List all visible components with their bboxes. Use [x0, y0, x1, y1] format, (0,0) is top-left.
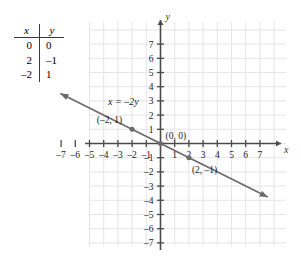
y-axis-tick-label: 2 — [149, 111, 154, 121]
x-axis-tick-label: 7 — [258, 150, 263, 160]
data-point — [186, 155, 191, 160]
x-axis-tick-label: –7 — [55, 150, 66, 160]
y-axis-tick-label: –7 — [143, 238, 154, 248]
data-point-label: (–2, 1) — [97, 115, 122, 126]
data-point — [130, 127, 135, 132]
y-axis-tick-label: –1 — [143, 153, 154, 163]
grid-lines — [90, 22, 287, 246]
equation-label: x = –2y — [107, 96, 139, 107]
figure-container: x y 0 0 2 –1 –2 1 –7–6–5–4–3–2–11234567–… — [0, 0, 301, 256]
data-point-label: (0, 0) — [166, 131, 187, 142]
y-axis-tick-label: 1 — [149, 125, 154, 135]
y-axis-label: y — [165, 11, 171, 22]
x-axis-tick-label: –4 — [98, 150, 109, 160]
x-axis-tick-label: 3 — [201, 150, 206, 160]
plotted-points: (–2, 1)(0, 0)(2, –1) — [97, 115, 217, 175]
annotations: yxx = –2y — [107, 11, 289, 155]
y-axis-tick-label: 3 — [149, 96, 154, 106]
x-axis-tick-label: 6 — [243, 150, 248, 160]
x-axis-tick-label: 5 — [229, 150, 234, 160]
y-axis-arrow-icon — [158, 20, 164, 25]
data-point — [158, 141, 163, 146]
y-axis-tick-label: 6 — [149, 54, 154, 64]
y-axis-tick-label: 4 — [149, 82, 154, 92]
x-axis-tick-label: –2 — [126, 150, 137, 160]
x-axis-tick-label: –3 — [112, 150, 123, 160]
y-axis-tick-label: –5 — [143, 210, 154, 220]
coordinate-plane: –7–6–5–4–3–2–11234567–7–6–5–4–3–2–112345… — [0, 0, 301, 256]
y-axis-tick-label: –6 — [143, 224, 154, 234]
line-arrow-right-icon — [259, 191, 269, 200]
x-axis-tick-label: –5 — [84, 150, 95, 160]
y-axis-tick-label: –4 — [143, 196, 154, 206]
line-graph — [60, 93, 267, 197]
x-axis-tick-label: –6 — [70, 150, 81, 160]
x-axis-arrow-icon — [276, 141, 281, 147]
y-axis-tick-label: 5 — [149, 68, 154, 78]
y-axis-tick-label: 7 — [149, 40, 154, 50]
x-axis-label: x — [283, 144, 289, 155]
line-arrow-left-icon — [59, 91, 69, 100]
plotted-line — [59, 91, 269, 200]
y-axis-tick-label: –2 — [143, 167, 154, 177]
y-axis-tick-label: –3 — [143, 182, 154, 192]
x-axis-tick-label: 4 — [215, 150, 220, 160]
data-point-label: (2, –1) — [192, 165, 217, 176]
